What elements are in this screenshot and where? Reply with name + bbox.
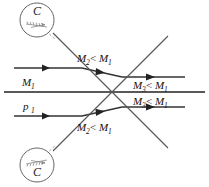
- label-upper-middle-right-sub: 1: [108, 58, 112, 67]
- top-callout-label: C: [33, 4, 42, 18]
- label-lower-middle-operator: <: [90, 121, 96, 133]
- shock-interaction-figure: C C: [0, 0, 209, 187]
- diagram-canvas: C C: [0, 0, 209, 187]
- label-upstream-pressure: p 1: [22, 100, 35, 115]
- upper-incoming-arrow-icon: [42, 64, 50, 71]
- label-lower-right-operator: <: [146, 95, 152, 107]
- label-lower-middle-right-sub: 1: [108, 127, 112, 136]
- label-upper-right-right-sub: 1: [164, 85, 168, 94]
- label-lower-right-right-sub: 1: [164, 101, 168, 110]
- label-upstream-pressure-sub: 1: [31, 106, 35, 115]
- top-callout[interactable]: C: [20, 3, 54, 37]
- label-upper-middle-operator: <: [90, 52, 96, 64]
- label-upstream-pressure-base: p: [22, 100, 29, 112]
- lower-deflected-arrow-icon: [96, 109, 106, 116]
- label-upstream-mach: M 1: [21, 76, 35, 91]
- upper-deflected-arrow-icon: [96, 68, 106, 75]
- bottom-callout-label: C: [33, 165, 42, 179]
- lower-incoming-arrow-icon: [42, 112, 50, 119]
- label-upstream-mach-sub: 1: [31, 82, 35, 91]
- bottom-callout[interactable]: C: [20, 148, 54, 182]
- label-upper-right-operator: <: [146, 79, 152, 91]
- label-lower-middle-mach: M 2 < M 1: [76, 121, 112, 136]
- label-upper-middle-mach: M 2 < M 1: [76, 52, 112, 67]
